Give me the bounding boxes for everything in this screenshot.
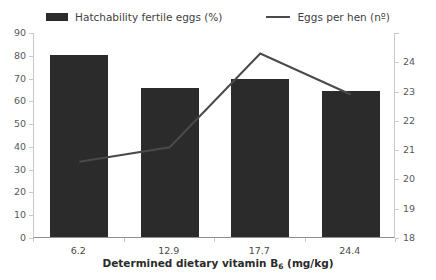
y-left-label-40: 40	[0, 142, 26, 152]
x-axis-title-suffix: (mg/kg)	[283, 257, 333, 269]
plot-frame	[33, 33, 395, 238]
x-axis-label-12-9: 12.9	[139, 246, 199, 256]
y-right-label-18: 18	[403, 233, 415, 243]
legend-entry-eggs-per-hen: Eggs per hen (nº)	[266, 12, 389, 23]
y-left-tick	[29, 33, 33, 34]
y-right-tick	[395, 92, 399, 93]
y-right-tick	[395, 209, 399, 210]
y-left-label-0: 0	[0, 233, 26, 243]
line-swatch-icon	[266, 16, 290, 18]
y-left-label-30: 30	[0, 165, 26, 175]
x-axis-tick	[124, 238, 125, 242]
y-left-label-70: 70	[0, 74, 26, 84]
y-left-tick	[29, 56, 33, 57]
y-right-tick	[395, 179, 399, 180]
y-right-label-23: 23	[403, 87, 415, 97]
x-axis-tick	[33, 238, 34, 242]
y-left-tick	[29, 215, 33, 216]
y-left-tick	[29, 147, 33, 148]
y-right-label-22: 22	[403, 116, 415, 126]
y-left-tick	[29, 192, 33, 193]
line-path	[79, 54, 351, 162]
line-series-eggs-per-hen	[34, 33, 396, 238]
y-right-tick	[395, 62, 399, 63]
y-left-label-20: 20	[0, 187, 26, 197]
x-axis-title-prefix: Determined dietary vitamin B	[103, 257, 279, 269]
chart-container: Hatchability fertile eggs (%) Eggs per h…	[0, 0, 436, 280]
y-left-tick	[29, 124, 33, 125]
y-right-label-21: 21	[403, 145, 415, 155]
y-right-tick	[395, 150, 399, 151]
y-right-label-20: 20	[403, 174, 415, 184]
y-left-tick	[29, 101, 33, 102]
y-left-label-10: 10	[0, 210, 26, 220]
legend-entry-hatchability: Hatchability fertile eggs (%)	[46, 12, 222, 23]
y-left-label-60: 60	[0, 96, 26, 106]
x-axis-tick	[395, 238, 396, 242]
x-axis-label-17-7: 17.7	[229, 246, 289, 256]
x-axis-title: Determined dietary vitamin B6 (mg/kg)	[0, 258, 436, 269]
y-right-tick	[395, 33, 399, 34]
legend-label-hatchability: Hatchability fertile eggs (%)	[75, 12, 222, 23]
legend-label-eggs-per-hen: Eggs per hen (nº)	[297, 12, 389, 23]
y-right-tick	[395, 121, 399, 122]
x-axis-label-6-2: 6.2	[48, 246, 108, 256]
x-axis-tick	[305, 238, 306, 242]
y-left-label-50: 50	[0, 119, 26, 129]
y-right-label-24: 24	[403, 57, 415, 67]
chart-legend: Hatchability fertile eggs (%) Eggs per h…	[0, 8, 436, 26]
y-left-label-90: 90	[0, 28, 26, 38]
bar-swatch-icon	[46, 13, 68, 21]
y-right-label-19: 19	[403, 204, 415, 214]
y-left-label-80: 80	[0, 51, 26, 61]
y-left-tick	[29, 170, 33, 171]
x-axis-tick	[214, 238, 215, 242]
x-axis-title-subscript: 6	[278, 262, 283, 271]
x-axis-label-24-4: 24.4	[320, 246, 380, 256]
y-left-tick	[29, 79, 33, 80]
